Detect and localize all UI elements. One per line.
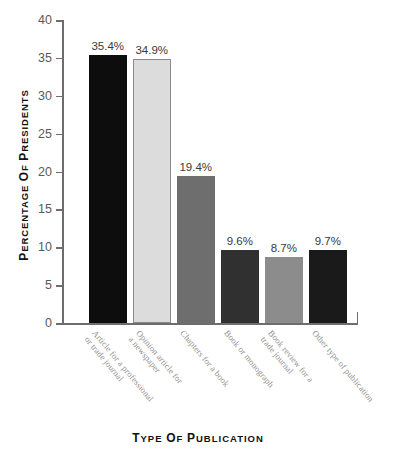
bar: 35.4% (89, 55, 127, 323)
y-axis-line (62, 20, 64, 323)
x-axis-category-label: Other type of publication (310, 328, 376, 404)
y-axis-title-cap-2: P (17, 152, 31, 161)
y-tick-label: 0 (45, 316, 52, 330)
y-tick-mark (56, 285, 62, 287)
y-tick-label: 20 (38, 165, 52, 179)
y-tick-mark (56, 209, 62, 211)
y-axis-title: PERCENTAGE OF PRESIDENTS (17, 65, 31, 285)
bar-value-label: 34.9% (135, 44, 168, 56)
bar: 9.6% (221, 250, 259, 323)
y-tick-mark (56, 134, 62, 136)
y-tick-mark (56, 20, 62, 22)
y-tick-label: 30 (38, 89, 52, 103)
y-tick-mark (56, 172, 62, 174)
y-axis-title-rest-2: RESIDENTS (19, 89, 30, 151)
x-axis-title: TYPE OF PUBLICATION (0, 431, 396, 445)
bar-value-label: 35.4% (91, 40, 124, 52)
y-tick-mark (56, 247, 62, 249)
y-tick-label: 35 (38, 51, 52, 65)
y-tick-label: 40 (38, 13, 52, 27)
y-axis-title-of-rest: F (19, 164, 30, 171)
y-tick-label: 25 (38, 127, 52, 141)
bar: 9.7% (309, 250, 347, 323)
x-axis-title-rest-1: YPE (141, 433, 163, 444)
y-axis-title-cap-1: P (17, 252, 31, 261)
bar-value-label: 9.6% (227, 235, 253, 247)
bar: 19.4% (177, 176, 215, 323)
x-axis-line (62, 323, 358, 325)
x-axis-title-cap-1: T (132, 431, 140, 445)
bar-value-label: 8.7% (271, 242, 297, 254)
bar-value-label: 9.7% (315, 235, 341, 247)
plot-area: 0510152025303540 35.4%34.9%19.4%9.6%8.7%… (62, 20, 358, 323)
y-axis-title-rest-1: ERCENTAGE (19, 185, 30, 252)
bar-chart: PERCENTAGE OF PRESIDENTS 051015202530354… (0, 0, 396, 457)
x-axis-title-cap-2: P (187, 431, 196, 445)
x-axis-title-of-rest: F (177, 433, 184, 444)
y-axis-title-of-cap: O (17, 171, 31, 181)
x-axis-end-tick (357, 312, 359, 323)
x-axis-category-label-line: Other type of publication (310, 328, 376, 404)
bar: 8.7% (265, 257, 303, 323)
y-tick-mark (56, 58, 62, 60)
bar-value-label: 19.4% (179, 161, 212, 173)
bar: 34.9% (133, 59, 171, 323)
x-axis-title-rest-2: UBLICATION (196, 433, 264, 444)
y-tick-label: 15 (38, 202, 52, 216)
y-tick-mark (56, 96, 62, 98)
y-tick-label: 10 (38, 240, 52, 254)
y-tick-mark (56, 323, 62, 325)
y-tick-label: 5 (45, 278, 52, 292)
x-axis-title-of-cap: O (166, 431, 176, 445)
